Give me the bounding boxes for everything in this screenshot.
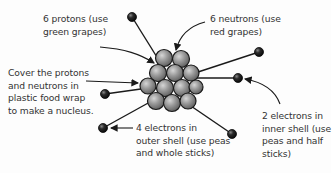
nucleus-grape: [180, 93, 196, 109]
nucleus-grape: [164, 95, 181, 112]
label-cover-nucleus: Cover the protons and neutrons in plasti…: [8, 67, 98, 117]
nucleus-grape: [167, 65, 184, 82]
electron-pea: [234, 74, 243, 83]
nucleus-grape: [189, 80, 203, 94]
nucleus-grape: [183, 65, 199, 81]
stick-top-right: [195, 52, 259, 73]
label-neutrons: 6 neutrons (use red grapes): [210, 13, 320, 38]
electron-pea: [255, 48, 264, 57]
nucleus: [140, 50, 203, 112]
electron-pea: [128, 13, 137, 22]
label-outer-electrons: 4 electrons in outer shell (use peas and…: [136, 122, 246, 160]
arrow-neutrons: [176, 22, 205, 50]
electron-pea: [101, 90, 110, 99]
electron-pea: [99, 124, 108, 133]
label-inner-electrons: 2 electrons in inner shell (use peas and…: [262, 110, 332, 160]
nucleus-grape: [140, 78, 156, 94]
label-protons: 6 protons (use green grapes): [43, 13, 123, 38]
arrow-inner-electrons: [245, 79, 280, 104]
nucleus-grape: [148, 93, 165, 110]
arrow-protons: [100, 47, 154, 63]
